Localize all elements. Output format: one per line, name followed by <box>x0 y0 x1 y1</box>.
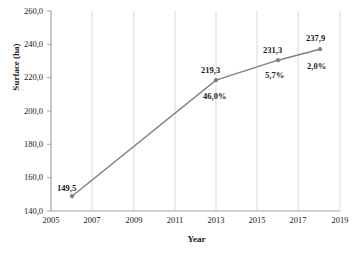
y-tick-label: 140,0 <box>1 207 43 216</box>
x-axis-title: Year <box>51 234 342 244</box>
x-tick-label: 2017 <box>278 216 318 225</box>
line-chart: Surface (ha) Year 260,0 240,0 220,0 200,… <box>0 0 357 255</box>
y-tick-label: 200,0 <box>1 107 43 116</box>
growth-rate-label: 46,0% <box>203 92 226 101</box>
x-tick-label: 2019 <box>320 216 357 225</box>
y-tick-label: 180,0 <box>1 140 43 149</box>
y-tick-label: 220,0 <box>1 73 43 82</box>
growth-rate-label: 2,0% <box>307 62 326 71</box>
data-markers <box>70 47 322 198</box>
data-point-label: 219,3 <box>201 66 220 75</box>
x-tick-label: 2011 <box>155 216 195 225</box>
x-tick-label: 2005 <box>31 216 71 225</box>
x-tick-label: 2013 <box>196 216 236 225</box>
y-tick-label: 160,0 <box>1 173 43 182</box>
data-point-label: 149,5 <box>57 184 76 193</box>
gridlines <box>51 11 340 211</box>
y-axis-title: Surface (ha) <box>11 17 21 117</box>
y-tick-label: 240,0 <box>1 40 43 49</box>
data-point-label: 231,3 <box>263 46 282 55</box>
x-tick-label: 2007 <box>72 216 112 225</box>
data-point-label: 237,9 <box>306 34 325 43</box>
y-tick-label: 260,0 <box>1 7 43 16</box>
growth-rate-label: 5,7% <box>265 71 284 80</box>
x-tick-label: 2009 <box>114 216 154 225</box>
x-tick-label: 2015 <box>237 216 277 225</box>
